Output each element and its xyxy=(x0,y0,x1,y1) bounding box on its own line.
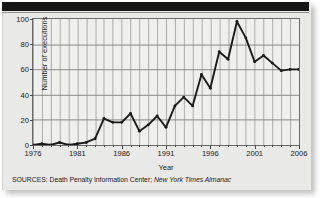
x-tick-mark xyxy=(237,145,238,147)
x-tick-mark xyxy=(122,145,123,149)
x-tick-mark xyxy=(228,145,229,147)
x-axis-title: Year xyxy=(32,163,300,172)
x-tick-mark xyxy=(68,145,69,147)
source-secondary: New York Times Almanac xyxy=(154,176,231,183)
x-tick-mark xyxy=(281,145,282,147)
y-tick-label: 40 xyxy=(21,90,29,99)
x-tick-mark xyxy=(157,145,158,147)
y-tick-label: 20 xyxy=(21,115,29,124)
chart-plot-area: 020406080100 197619811986199119962001200… xyxy=(32,18,300,146)
x-tick-label: 1996 xyxy=(202,149,219,158)
x-tick-label: 2001 xyxy=(246,149,263,158)
x-tick-mark xyxy=(193,145,194,147)
chart-series-line xyxy=(33,19,299,145)
x-tick-mark xyxy=(175,145,176,147)
x-tick-mark xyxy=(210,145,211,149)
y-axis-title: Number of executions xyxy=(40,0,49,109)
y-tick-mark xyxy=(30,44,33,45)
x-tick-mark xyxy=(201,145,202,147)
x-tick-mark xyxy=(77,145,78,149)
x-tick-mark xyxy=(51,145,52,147)
x-tick-mark xyxy=(95,145,96,147)
x-tick-mark xyxy=(148,145,149,147)
x-tick-mark xyxy=(33,145,34,149)
x-tick-mark xyxy=(166,145,167,149)
x-tick-mark xyxy=(104,145,105,147)
source-primary: Death Penalty Information Center; xyxy=(49,176,152,183)
x-tick-label: 1986 xyxy=(113,149,130,158)
x-tick-label: 1991 xyxy=(158,149,175,158)
x-tick-mark xyxy=(131,145,132,147)
x-tick-mark xyxy=(139,145,140,147)
y-tick-mark xyxy=(30,95,33,96)
x-tick-mark xyxy=(246,145,247,147)
source-prefix: SOURCES: xyxy=(12,176,48,183)
x-tick-label: 1981 xyxy=(69,149,86,158)
y-tick-label: 60 xyxy=(21,65,29,74)
figure-container: 020406080100 197619811986199119962001200… xyxy=(0,0,323,198)
x-tick-mark xyxy=(264,145,265,147)
x-tick-mark xyxy=(290,145,291,147)
x-tick-mark xyxy=(255,145,256,149)
x-tick-label: 1976 xyxy=(25,149,42,158)
x-tick-mark xyxy=(184,145,185,147)
source-note: SOURCES: Death Penalty Information Cente… xyxy=(12,176,231,183)
y-tick-mark xyxy=(30,19,33,20)
y-tick-label: 80 xyxy=(21,40,29,49)
x-tick-mark xyxy=(60,145,61,147)
y-tick-label: 100 xyxy=(16,15,29,24)
x-tick-mark xyxy=(219,145,220,147)
x-tick-mark xyxy=(272,145,273,147)
x-tick-mark xyxy=(42,145,43,147)
x-tick-mark xyxy=(113,145,114,147)
x-tick-mark xyxy=(86,145,87,147)
y-tick-mark xyxy=(30,69,33,70)
x-tick-label: 2006 xyxy=(291,149,308,158)
x-tick-mark xyxy=(299,145,300,149)
y-tick-mark xyxy=(30,120,33,121)
